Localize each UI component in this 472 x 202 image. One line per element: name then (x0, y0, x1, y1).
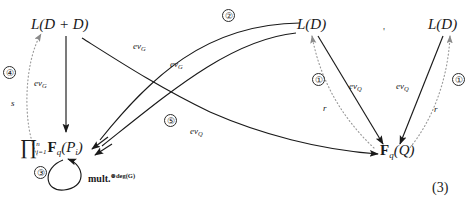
separator-mark: ' (383, 25, 385, 37)
product-body-f: F (47, 139, 56, 155)
label-r-left: r (323, 104, 327, 113)
circled-number-4: ④ (3, 66, 16, 79)
label-ev-g-lower-curve: evG (170, 60, 183, 69)
node-l-d-middle: L(D) (297, 17, 326, 32)
label-ev-g-lower-sub: G (178, 63, 183, 70)
label-ev-g-upper-base: ev (133, 41, 141, 51)
node-product-fq-pi: ∏ni=1Fq(Pi) (20, 135, 83, 156)
mult-label-superscript: ⊗deg(G) (111, 172, 136, 179)
label-ev-q-right-base: ev (396, 81, 404, 91)
circled-number-3: ③ (34, 166, 47, 179)
label-s: s (11, 99, 15, 108)
line-ldd-diagonal (82, 38, 210, 112)
arrow-r-dotted-left (312, 36, 374, 148)
curve-evg-to-ld-middle (100, 23, 300, 140)
arrow-r-dotted-right (408, 36, 450, 150)
node-fq-q: Fq(Q) (380, 143, 415, 158)
arrowhead-curve-2 (95, 144, 112, 155)
product-body-arg: (P (61, 139, 75, 155)
product-symbol: ∏ (20, 135, 37, 159)
circled-number-2: ② (222, 9, 235, 22)
label-ev-q-long-curve: evQ (190, 127, 203, 136)
label-ev-q-left-base: ev (349, 81, 357, 91)
label-r-right: r (434, 105, 438, 114)
curve-evq-to-fqq (210, 112, 378, 154)
label-ev-q-left-sub: Q (357, 85, 362, 92)
commutative-diagram-figure: L(D + D) L(D) L(D) ' ∏ni=1Fq(Pi) Fq(Q) e… (0, 0, 472, 202)
label-ev-g-vertical-base: ev (34, 78, 42, 88)
circled-number-1-left: ① (312, 73, 325, 86)
circled-number-1-right: ① (452, 73, 465, 86)
label-ev-q-long-base: ev (190, 126, 198, 136)
product-lower-limit: i=1 (36, 149, 46, 156)
node-l-d-plus-d: L(D + D) (31, 17, 89, 32)
label-ev-g-vertical: evG (34, 79, 47, 88)
self-loop-mult-label: mult.⊗deg(G) (88, 172, 135, 184)
product-body-close: ) (78, 139, 83, 155)
node-l-d-right: L(D) (428, 17, 457, 32)
fqq-argument: (Q) (394, 142, 415, 158)
label-ev-q-right-sub: Q (404, 85, 409, 92)
fqq-subscript: q (389, 150, 394, 160)
self-loop-mult (48, 159, 81, 190)
label-ev-g-upper-curve: evG (133, 42, 146, 51)
label-ev-g-vertical-sub: G (42, 82, 47, 89)
label-ev-q-middle-right: evQ (396, 82, 409, 91)
product-body-arg-subscript: i (75, 147, 78, 157)
label-ev-q-middle-left: evQ (349, 82, 362, 91)
mult-label-main: mult. (88, 173, 111, 184)
product-body-subscript: q (57, 147, 62, 157)
equation-number: (3) (432, 180, 448, 196)
label-ev-g-upper-sub: G (141, 45, 146, 52)
label-ev-q-long-sub: Q (198, 130, 203, 137)
label-ev-g-lower-base: ev (170, 59, 178, 69)
circled-number-5: ⑤ (164, 114, 177, 127)
fqq-bold-f: F (380, 142, 389, 158)
